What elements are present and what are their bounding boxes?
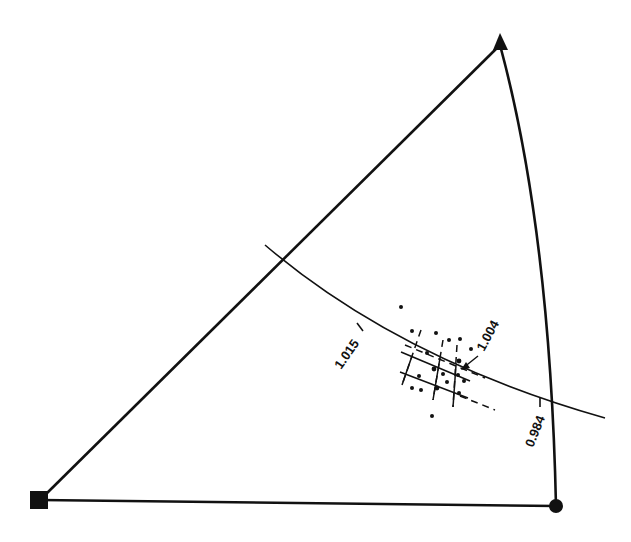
left-edge	[40, 45, 500, 500]
triangle-marker-icon	[493, 33, 508, 50]
label-1004: 1.004	[473, 317, 502, 353]
label-0984: 0.984	[522, 413, 548, 449]
label-1015: 1.015	[331, 336, 362, 371]
tick-1015	[357, 323, 363, 331]
circle-marker-icon	[549, 499, 563, 513]
square-marker-icon	[30, 491, 48, 509]
bottom-edge	[40, 500, 556, 506]
diagram-canvas: 1.015 1.004 0.984	[0, 0, 631, 542]
